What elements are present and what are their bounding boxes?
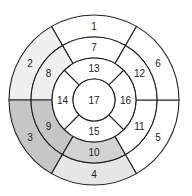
segment-label-2: 2 (27, 58, 33, 69)
segment-label-17: 17 (88, 95, 100, 106)
segment-label-7: 7 (91, 42, 97, 53)
segment-label-9: 9 (46, 121, 52, 132)
bullseye-diagram: 1234567891011121314151617 (0, 0, 192, 196)
segment-label-14: 14 (57, 95, 69, 106)
segment-label-5: 5 (155, 132, 161, 143)
segment-label-3: 3 (27, 132, 33, 143)
segment-label-8: 8 (46, 68, 52, 79)
segment-label-15: 15 (88, 126, 100, 137)
segment-label-16: 16 (120, 95, 132, 106)
segment-label-11: 11 (134, 121, 145, 132)
segment-label-4: 4 (91, 169, 97, 180)
segment-label-12: 12 (134, 68, 146, 79)
segment-label-13: 13 (88, 63, 100, 74)
segment-label-1: 1 (91, 21, 97, 32)
segment-label-10: 10 (88, 147, 100, 158)
segment-label-6: 6 (155, 58, 161, 69)
